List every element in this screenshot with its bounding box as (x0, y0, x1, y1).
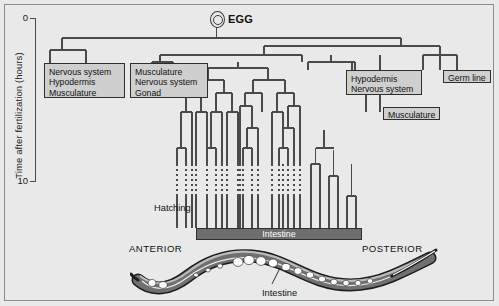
fate-line: Germ line (448, 73, 486, 84)
fate-box-d: Musculature (383, 107, 440, 120)
fate-line: Hypodermis (351, 74, 417, 85)
fate-line: Musculature (49, 88, 120, 99)
fate-line: Nervous system (351, 84, 417, 95)
fate-box-c: Hypodermis Nervous system (346, 70, 422, 95)
fate-line: Hypodermis (49, 77, 120, 88)
fate-box-ab: Nervous system Hypodermis Musculature (44, 63, 125, 98)
intestine-bar: Intestine (196, 228, 362, 240)
worm-intestine-label: Intestine (262, 288, 297, 298)
fate-line: Nervous system (49, 67, 120, 78)
fate-line: Musculature (135, 67, 203, 78)
intestine-bar-label: Intestine (197, 229, 361, 240)
fate-line: Musculature (388, 110, 435, 121)
fate-line: Nervous system (135, 77, 203, 88)
fate-box-ms: Musculature Nervous system Gonad (130, 63, 208, 98)
hatching-label: Hatching (154, 203, 191, 213)
fate-line: Gonad (135, 88, 203, 99)
fate-box-germline: Germ line (443, 70, 491, 83)
figure-canvas: Time after fertilization (hours) 0 10 EG… (0, 0, 499, 306)
